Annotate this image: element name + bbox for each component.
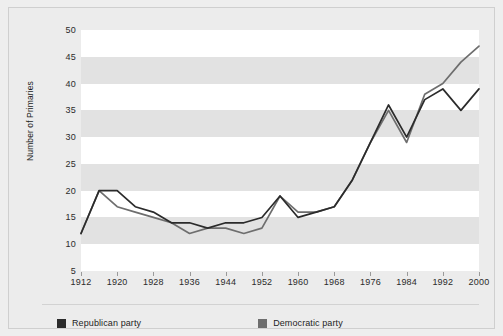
x-tickmark-1960 [298, 272, 299, 276]
figure-container: Number of Primaries 5101520253035404550 … [0, 0, 503, 336]
x-tickmark-1952 [262, 272, 263, 276]
y-tick-label-35: 35 [66, 105, 76, 115]
x-tickmark-1936 [190, 272, 191, 276]
figure-frame: Number of Primaries 5101520253035404550 … [8, 7, 495, 329]
y-tick-label-20: 20 [66, 186, 76, 196]
y-tick-label-10: 10 [66, 239, 76, 249]
y-tick-label-15: 15 [66, 212, 76, 222]
y-tick-label-45: 45 [66, 52, 76, 62]
legend-label: Democratic party [273, 318, 343, 328]
y-tick-label-25: 25 [66, 159, 76, 169]
x-tickmark-1912 [81, 272, 82, 276]
x-tickmark-2000 [479, 272, 480, 276]
y-tick-label-50: 50 [66, 25, 76, 35]
x-tickmark-1984 [407, 272, 408, 276]
x-tickmark-1920 [117, 272, 118, 276]
x-tick-label-1912: 1912 [71, 277, 92, 287]
plot-area [81, 30, 479, 271]
y-axis-title: Number of Primaries [25, 66, 35, 176]
x-tick-label-1960: 1960 [288, 277, 309, 287]
x-tickmark-1992 [443, 272, 444, 276]
legend-label: Republican party [72, 318, 141, 328]
x-tick-label-1992: 1992 [432, 277, 453, 287]
series-line-democratic-party [81, 46, 479, 233]
legend-swatch-icon [258, 319, 267, 328]
y-tick-label-40: 40 [66, 79, 76, 89]
x-tickmark-1968 [334, 272, 335, 276]
chart-legend: Republican partyDemocratic party [42, 313, 479, 333]
y-tick-label-5: 5 [71, 266, 76, 276]
series-line-republican-party [81, 89, 479, 234]
y-tick-label-30: 30 [66, 132, 76, 142]
x-tick-label-1976: 1976 [360, 277, 381, 287]
x-tick-label-1920: 1920 [107, 277, 128, 287]
x-tick-label-1968: 1968 [324, 277, 345, 287]
x-tickmark-1928 [153, 272, 154, 276]
legend-item-republican-party[interactable]: Republican party [57, 318, 141, 328]
legend-divider [42, 304, 479, 305]
x-tick-label-1936: 1936 [179, 277, 200, 287]
x-tickmark-1944 [226, 272, 227, 276]
x-tick-label-1952: 1952 [251, 277, 272, 287]
x-tick-label-1928: 1928 [143, 277, 164, 287]
x-tick-label-2000: 2000 [469, 277, 490, 287]
y-axis-ticks: 5101520253035404550 [49, 30, 79, 271]
chart-lines [81, 30, 479, 271]
x-tick-label-1944: 1944 [215, 277, 236, 287]
legend-swatch-icon [57, 319, 66, 328]
legend-item-democratic-party[interactable]: Democratic party [258, 318, 343, 328]
x-tickmark-1976 [370, 272, 371, 276]
x-axis-ticks: 1912192019281936194419521960196819761984… [81, 272, 479, 292]
x-tick-label-1984: 1984 [396, 277, 417, 287]
